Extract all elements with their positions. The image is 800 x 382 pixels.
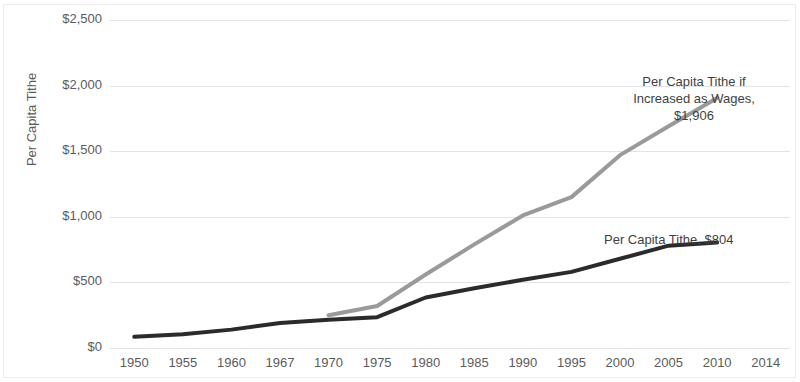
- gridline-0: [110, 348, 790, 349]
- plot-area: [110, 20, 790, 348]
- x-axis-tick-labels: 1950195519601967197019751980198519901995…: [110, 355, 790, 375]
- annotation-wages-label: Per Capita Tithe if Increased as Wages, …: [596, 73, 792, 124]
- chart-container: Per Capita Tithe $0$500$1,000$1,500$2,00…: [0, 0, 800, 382]
- series-lines: [110, 20, 790, 348]
- y-tick-label-2000: $2,000: [32, 77, 102, 92]
- y-tick-label-1000: $1,000: [32, 208, 102, 223]
- annotation-tithe-label: Per Capita Tithe, $804: [604, 231, 794, 248]
- y-tick-label-0: $0: [32, 339, 102, 354]
- y-tick-label-2500: $2,500: [32, 11, 102, 26]
- x-tick-label-2014: 2014: [736, 355, 796, 370]
- series-line-1: [329, 98, 718, 315]
- series-line-0: [134, 243, 717, 337]
- y-axis-tick-labels: $0$500$1,000$1,500$2,000$2,500: [30, 20, 102, 348]
- y-tick-label-500: $500: [32, 273, 102, 288]
- y-tick-label-1500: $1,500: [32, 142, 102, 157]
